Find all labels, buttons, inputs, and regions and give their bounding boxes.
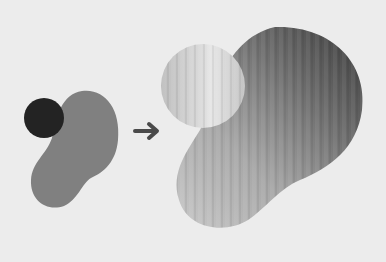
after-shape: [161, 27, 363, 228]
before-shape: [24, 91, 118, 208]
dark-circle: [24, 98, 64, 138]
transformation-diagram: [0, 0, 386, 262]
arrow-right-icon: [135, 124, 157, 138]
